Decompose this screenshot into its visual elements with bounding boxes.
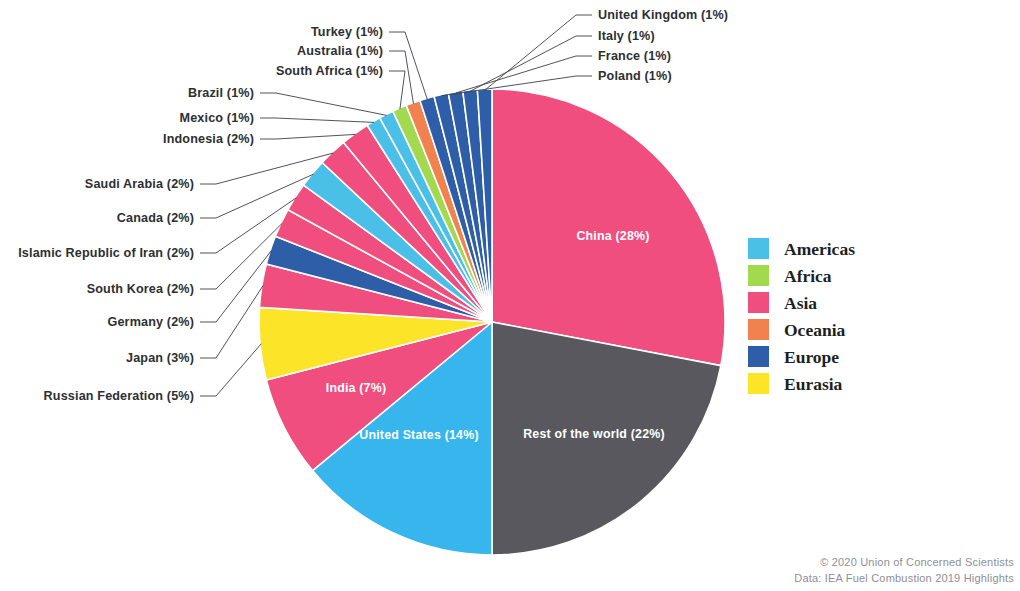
slice-label: India (7%) xyxy=(326,381,387,395)
legend-label: Africa xyxy=(784,266,832,286)
slice-leader-label: Italy (1%) xyxy=(598,29,655,43)
legend-swatch[interactable] xyxy=(748,373,769,394)
legend-swatch[interactable] xyxy=(748,319,769,340)
legend-swatch[interactable] xyxy=(748,265,769,286)
slice-label: Rest of the world (22%) xyxy=(523,427,665,441)
slice-leader-label: France (1%) xyxy=(598,49,671,63)
slice-leader-label: Saudi Arabia (2%) xyxy=(85,177,194,191)
credit-line-1: © 2020 Union of Concerned Scientists xyxy=(820,556,1014,568)
slice-label: China (28%) xyxy=(576,229,649,243)
leader-line xyxy=(389,71,405,109)
pie-chart: China (28%)Rest of the world (22%)United… xyxy=(0,0,1020,591)
leader-line xyxy=(260,118,374,122)
slice-leader-label: South Africa (1%) xyxy=(276,64,383,78)
legend-label: Americas xyxy=(784,239,855,259)
credit-line-2: Data: IEA Fuel Combustion 2019 Highlight… xyxy=(794,572,1014,584)
slice-leader-label: Japan (3%) xyxy=(126,351,194,365)
slice-leader-label: Turkey (1%) xyxy=(311,25,383,39)
chart-canvas: China (28%)Rest of the world (22%)United… xyxy=(0,0,1020,591)
legend: AmericasAfricaAsiaOceaniaEuropeEurasia xyxy=(748,238,855,394)
slice-leader-label: Islamic Republic of Iran (2%) xyxy=(18,246,194,260)
legend-label: Oceania xyxy=(784,320,845,340)
slice-leader-label: Indonesia (2%) xyxy=(163,132,254,146)
slice-leader-label: Brazil (1%) xyxy=(188,86,254,100)
slice-leader-label: South Korea (2%) xyxy=(87,282,194,296)
slice-leader-label: Canada (2%) xyxy=(117,211,194,225)
legend-swatch[interactable] xyxy=(748,346,769,367)
legend-swatch[interactable] xyxy=(748,238,769,259)
legend-label: Europe xyxy=(784,347,839,367)
slice-leader-label: Russian Federation (5%) xyxy=(44,389,194,403)
slice-leader-label: Germany (2%) xyxy=(108,315,195,329)
slice-leader-label: United Kingdom (1%) xyxy=(598,8,728,22)
leader-line xyxy=(456,56,592,93)
slice-leader-label: Poland (1%) xyxy=(598,69,672,83)
legend-label: Eurasia xyxy=(784,374,843,394)
legend-label: Asia xyxy=(784,293,817,313)
slice-leader-label: Mexico (1%) xyxy=(180,111,254,125)
leader-line xyxy=(260,93,387,115)
leader-line xyxy=(200,344,261,396)
slice-leader-label: Australia (1%) xyxy=(297,44,383,58)
pie-slice[interactable] xyxy=(492,89,725,366)
leader-line xyxy=(260,134,356,139)
pie-slices xyxy=(259,89,725,555)
leader-line xyxy=(389,32,427,99)
legend-swatch[interactable] xyxy=(748,292,769,313)
credit-block: © 2020 Union of Concerned Scientists Dat… xyxy=(794,556,1014,584)
slice-label: United States (14%) xyxy=(359,428,478,442)
